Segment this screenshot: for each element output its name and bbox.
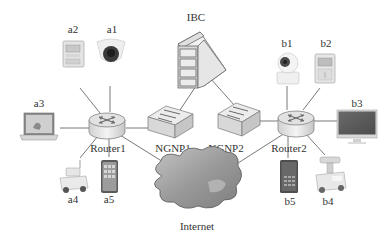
router2-label: Router2 bbox=[271, 142, 306, 154]
b3-monitor-icon bbox=[337, 110, 377, 144]
ngnp1-switch-icon bbox=[148, 106, 193, 138]
b5-smartphone-icon bbox=[280, 160, 298, 193]
internet-label: Internet bbox=[180, 220, 214, 232]
b4-label: b4 bbox=[323, 195, 335, 207]
b4-robot-vehicle-icon bbox=[316, 157, 346, 193]
ibc-label: IBC bbox=[187, 11, 205, 23]
b1-label: b1 bbox=[282, 37, 293, 49]
edge-router2-b2 bbox=[303, 88, 320, 110]
router2-icon bbox=[278, 111, 314, 137]
b2-label: b2 bbox=[321, 37, 332, 49]
a4-robot-vehicle-icon bbox=[60, 160, 88, 193]
a2-label: a2 bbox=[68, 23, 78, 35]
edge-router2-b4 bbox=[305, 133, 325, 155]
edge-router1-a2 bbox=[80, 88, 100, 113]
b2-smart-meter-icon bbox=[315, 54, 335, 83]
a1-label: a1 bbox=[107, 23, 117, 35]
internet-cloud-icon bbox=[154, 146, 241, 208]
a3-laptop-icon bbox=[20, 113, 58, 140]
a5-smartphone-icon bbox=[101, 160, 118, 193]
router1-label: Router1 bbox=[90, 142, 125, 154]
router1-icon bbox=[89, 113, 125, 139]
a4-label: a4 bbox=[68, 193, 79, 205]
ibc-server-icon bbox=[178, 32, 226, 88]
b5-label: b5 bbox=[285, 195, 297, 207]
b3-label: b3 bbox=[352, 97, 364, 109]
a2-smart-meter-icon bbox=[63, 41, 84, 67]
a3-label: a3 bbox=[34, 97, 45, 109]
b1-ip-camera-icon bbox=[277, 53, 299, 84]
a5-label: a5 bbox=[104, 193, 115, 205]
a1-dome-camera-icon bbox=[97, 39, 125, 62]
network-diagram: IBC a2 a1 a3 Router1 bbox=[0, 0, 389, 240]
ngnp2-switch-icon bbox=[218, 103, 260, 136]
edge-ngnp2-ibc bbox=[210, 78, 235, 106]
